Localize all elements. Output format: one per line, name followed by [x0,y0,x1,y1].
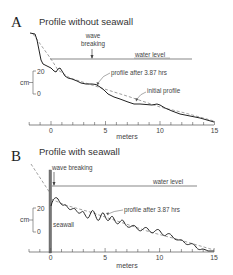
panel-b-y-unit: cm [20,216,29,223]
panel-a-profile-after-label: profile after 3.87 hrs [111,69,167,77]
panel-a-x-tick-5: 5 [104,127,108,134]
panel-b-wave-breaking-label: wave breaking [51,164,93,172]
panel-a: A Profile without seawall wave breaking … [11,14,218,140]
panel-b: B Profile with seawall wave breaking wat… [11,146,218,269]
seawall-diagram: A Profile without seawall wave breaking … [0,0,233,275]
panel-a-water-level-label: water level [134,51,165,58]
panel-b-x-tick-10: 10 [156,254,164,261]
panel-b-y-tick-0: 0 [37,228,41,235]
panel-b-water-level-label: water level [152,178,183,185]
panel-b-letter: B [11,148,21,164]
panel-b-seawall-label: seawall [53,221,74,228]
panel-b-profile-after-label: profile after 3.87 hrs [124,206,180,214]
panel-a-y-axis: 20 0 cm [20,68,45,97]
panel-a-initial-profile-label: initial profile [147,87,181,95]
panel-b-x-tick-0: 0 [49,254,53,261]
panel-a-x-axis-label: meters [116,133,138,140]
panel-a-wave-arrow-icon [91,49,94,59]
panel-b-initial-profile-upper [31,164,50,193]
panel-b-x-axis-label: meters [116,262,138,269]
panel-a-initial-profile [33,34,214,121]
panel-b-x-tick-15: 15 [210,254,218,261]
panel-b-seawall [49,170,52,253]
panel-a-letter: A [11,14,22,30]
panel-a-title: Profile without seawall [39,16,133,27]
panel-a-profile-after [30,33,214,122]
panel-b-x-axis: 0 5 10 15 meters [29,248,218,269]
panel-a-wave-label-2: breaking [81,40,106,48]
panel-b-wave-arrow-icon [53,172,56,186]
panel-a-wave-label-1: wave [85,32,101,39]
panel-a-y-tick-0: 0 [37,90,41,97]
panel-a-x-tick-0: 0 [49,127,53,134]
panel-b-x-tick-5: 5 [103,254,107,261]
panel-b-y-tick-20: 20 [37,205,45,212]
panel-b-y-axis: 20 0 cm [20,205,45,235]
panel-a-y-tick-20: 20 [37,68,45,75]
panel-a-x-axis: 0 5 10 15 meters [29,121,218,140]
panel-a-x-tick-15: 15 [211,127,219,134]
panel-a-y-unit: cm [20,79,29,86]
panel-a-x-tick-10: 10 [156,127,164,134]
panel-b-title: Profile with seawall [39,146,120,157]
